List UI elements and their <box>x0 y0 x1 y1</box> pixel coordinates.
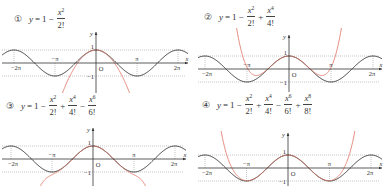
x-axis-arrow-icon <box>379 68 382 71</box>
origin-label: O <box>292 71 297 78</box>
formula-4: ④y=1−x22!+x44!−x66!+x88! <box>202 94 313 115</box>
fraction-term: x22! <box>245 94 254 115</box>
y-tick-1: 1 <box>283 148 286 155</box>
x-tick-neg-pi: −π <box>49 151 57 158</box>
panel-number: ① <box>14 14 22 24</box>
fraction-term: x22! <box>57 8 66 29</box>
x-tick-neg-pi: −π <box>52 55 60 62</box>
x-tick-2pi: 2π <box>174 64 181 71</box>
y-tick-neg1: −1 <box>280 79 287 86</box>
fraction-term: x66! <box>284 94 293 115</box>
chart-panel-3: xy−2π−πOπ2π1−1 <box>2 126 187 186</box>
fraction-term: x66! <box>88 95 97 116</box>
formula-2: ②y=1−x22!+x44! <box>204 6 276 27</box>
fraction-term: x44! <box>68 95 77 116</box>
origin-label: O <box>99 65 104 72</box>
x-axis-label: x <box>379 61 383 68</box>
y-axis-label: y <box>89 30 93 37</box>
x-tick-2pi: 2π <box>369 70 376 77</box>
x-tick-neg-2pi: −2π <box>202 169 213 176</box>
x-tick-pi: π <box>328 160 332 167</box>
taylor-curve <box>2 146 186 186</box>
y-tick-1: 1 <box>284 49 287 56</box>
x-tick-neg-pi: −π <box>243 160 251 167</box>
y-axis-label: y <box>86 126 90 133</box>
panel-number: ④ <box>202 100 210 110</box>
formula-1: ①y=1−x22! <box>14 8 66 29</box>
x-axis-arrow-icon <box>185 62 188 65</box>
x-tick-neg-2pi: −2π <box>202 70 213 77</box>
x-axis-label: x <box>185 55 189 62</box>
x-tick-neg-2pi: −2π <box>11 64 22 71</box>
panel-number: ② <box>204 12 212 22</box>
y-axis-arrow-icon <box>287 133 290 136</box>
y-axis-arrow-icon <box>92 128 95 131</box>
x-tick-pi: π <box>132 151 136 158</box>
x-axis-label: x <box>183 151 187 158</box>
fraction-term: x22! <box>247 6 256 27</box>
x-axis-arrow-icon <box>183 158 186 161</box>
fraction-term: x88! <box>303 94 312 115</box>
y-tick-neg1: −1 <box>279 178 286 185</box>
x-axis-label: x <box>379 160 383 167</box>
x-tick-pi: π <box>135 55 139 62</box>
y-tick-1: 1 <box>91 43 94 50</box>
x-tick-neg-pi: −π <box>244 61 252 68</box>
fraction-term: x44! <box>266 6 275 27</box>
x-tick-2pi: 2π <box>171 160 178 167</box>
y-tick-1: 1 <box>88 139 91 146</box>
y-tick-neg1: −1 <box>84 169 91 176</box>
fraction-term: x44! <box>264 94 273 115</box>
y-axis-label: y <box>281 131 285 138</box>
panel-number: ③ <box>6 101 14 111</box>
y-tick-neg1: −1 <box>87 73 94 80</box>
y-axis-label: y <box>282 33 286 40</box>
x-tick-neg-2pi: −2π <box>8 160 19 167</box>
x-tick-2pi: 2π <box>367 169 374 176</box>
fraction-term: x22! <box>49 95 58 116</box>
y-axis-arrow-icon <box>95 32 98 35</box>
formula-3: ③y=1−x22!+x44!−x66! <box>6 95 97 116</box>
taylor-curve <box>198 0 382 181</box>
y-axis-arrow-icon <box>288 35 291 38</box>
origin-label: O <box>291 170 296 177</box>
origin-label: O <box>96 161 101 168</box>
x-axis-arrow-icon <box>379 167 382 170</box>
